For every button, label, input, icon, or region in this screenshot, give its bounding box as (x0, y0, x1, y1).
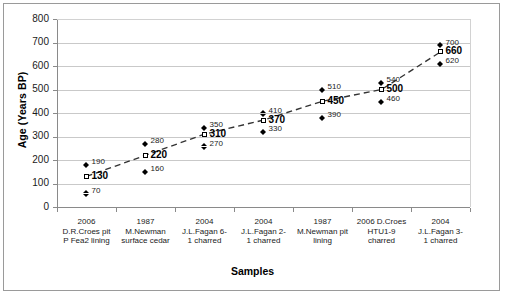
data-label-upper: 280 (151, 136, 164, 145)
data-point-mean (379, 87, 384, 92)
data-point-lower (319, 112, 325, 118)
data-point-mean (84, 174, 89, 179)
data-label-lower: 390 (328, 110, 341, 119)
data-label-mean: 370 (269, 114, 286, 125)
data-point-upper (319, 84, 325, 90)
data-label-upper: 510 (328, 82, 341, 91)
data-point-mean (202, 132, 207, 137)
data-point-mean (261, 118, 266, 123)
chart-screenshot: Age (Years BP) Samples 01002003004005006… (0, 0, 505, 297)
data-point-lower (83, 187, 89, 193)
data-label-lower: 270 (210, 139, 223, 148)
data-point-mean (438, 49, 443, 54)
data-point-upper (260, 107, 266, 113)
data-label-lower: 160 (151, 164, 164, 173)
data-point-upper (83, 159, 89, 165)
data-label-mean: 310 (210, 128, 227, 139)
data-label-lower: 460 (387, 94, 400, 103)
data-label-mean: 130 (92, 170, 109, 181)
data-label-lower: 620 (446, 56, 459, 65)
data-point-lower (378, 96, 384, 102)
data-point-mean (143, 153, 148, 158)
data-label-mean: 220 (151, 149, 168, 160)
data-label-lower: 70 (92, 186, 101, 195)
data-label-upper: 190 (92, 157, 105, 166)
data-point-lower (142, 166, 148, 172)
data-point-lower (260, 126, 266, 132)
data-point-mean (320, 99, 325, 104)
data-label-mean: 500 (387, 83, 404, 94)
data-label-mean: 450 (328, 95, 345, 106)
data-point-lower (437, 58, 443, 64)
data-point-upper (142, 138, 148, 144)
data-label-lower: 330 (269, 124, 282, 133)
data-point-lower (201, 140, 207, 146)
data-point-upper (378, 77, 384, 83)
chart-plot-region: Age (Years BP) Samples 01002003004005006… (0, 0, 505, 297)
data-point-upper (437, 39, 443, 45)
data-point-upper (201, 122, 207, 128)
trend-line (0, 0, 505, 297)
data-label-mean: 660 (446, 45, 463, 56)
